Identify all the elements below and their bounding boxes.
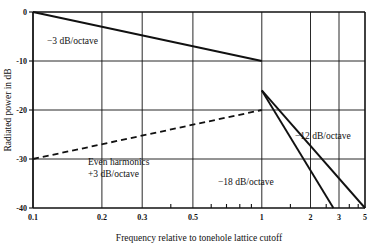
y-tick-label-0: 0 — [23, 8, 27, 17]
chart-svg: 0.1 0.2 0.3 0.5 1 2 3 5 0 -10 -20 -30 -4… — [0, 0, 380, 248]
x-tick-label-3: 0.5 — [188, 213, 198, 222]
y-tick-label-4: -40 — [16, 204, 27, 213]
x-tick-label-0: 0.1 — [28, 213, 38, 222]
y-tick-labels: 0 -10 -20 -30 -40 — [16, 8, 27, 213]
x-tick-labels: 0.1 0.2 0.3 0.5 1 2 3 5 — [28, 213, 367, 222]
y-tick-label-1: -10 — [16, 57, 27, 66]
annotation-even-harmonics-title: Even harmonics — [88, 157, 150, 167]
annotation-minus-12-db-per-octave: −12 dB/octave — [295, 131, 351, 141]
annotation-minus-18-db-per-octave: −18 dB/octave — [218, 177, 274, 187]
x-tick-label-2: 0.3 — [137, 213, 147, 222]
x-tick-label-5: 2 — [309, 213, 313, 222]
x-tick-label-1: 0.2 — [97, 213, 107, 222]
x-tick-label-6: 3 — [337, 213, 341, 222]
annotation-minus-3-db-per-octave: −3 dB/octave — [47, 36, 98, 46]
chart-figure: 0.1 0.2 0.3 0.5 1 2 3 5 0 -10 -20 -30 -4… — [0, 0, 380, 248]
y-axis-title: Radiated power in dB — [3, 68, 13, 151]
y-tick-label-2: -20 — [16, 106, 27, 115]
y-tick-label-3: -30 — [16, 155, 27, 164]
x-tick-label-4: 1 — [260, 213, 264, 222]
annotation-even-harmonics-slope: +3 dB/octave — [88, 169, 139, 179]
x-tick-label-7: 5 — [363, 213, 367, 222]
x-axis-title: Frequency relative to tonehole lattice c… — [116, 233, 283, 243]
